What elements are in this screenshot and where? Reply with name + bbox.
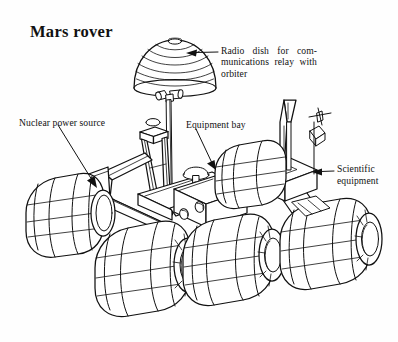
page-title: Mars rover: [30, 22, 113, 41]
label-nuclear-power-source: Nuclear power source: [19, 117, 105, 128]
label-scientific-equipment-line-2: equipment: [337, 175, 395, 187]
label-scientific-equipment: Scientific equipment: [337, 163, 395, 186]
label-radio-dish-line-1: Radio dish for com-: [221, 45, 317, 56]
label-equipment-bay: Equipment bay: [186, 119, 246, 130]
wheel-mid-right: [215, 140, 286, 208]
label-radio-dish-line-3: orbiter: [221, 68, 247, 79]
label-radio-dish: Radio dish for com- munications relay wi…: [221, 45, 317, 79]
label-scientific-equipment-line-1: Scientific: [337, 163, 395, 175]
mars-rover-figure: .ln { fill:none; stroke:#111; stroke-wid…: [0, 0, 398, 342]
label-radio-dish-line-2: munications relay with: [221, 56, 317, 67]
